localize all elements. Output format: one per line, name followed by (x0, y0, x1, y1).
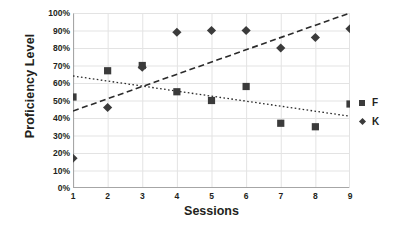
x-axis-tick-label: 9 (340, 192, 360, 201)
data-point-f (346, 100, 350, 107)
data-point-f (73, 93, 77, 100)
x-axis-tick-label: 5 (202, 192, 222, 201)
plot-canvas (73, 13, 350, 188)
x-axis-tick-label: 7 (271, 192, 291, 201)
data-point-f (173, 88, 180, 95)
data-point-f (104, 67, 111, 74)
x-axis-tick-label: 3 (132, 192, 152, 201)
plot-area (73, 13, 350, 188)
square-marker-icon (357, 97, 368, 108)
x-axis-tick-label: 1 (63, 192, 83, 201)
data-point-f (277, 120, 284, 127)
legend-label: K (372, 117, 379, 127)
data-point-f (243, 83, 250, 90)
data-point-f (312, 123, 319, 130)
diamond-marker-icon (357, 116, 368, 127)
legend-label: F (372, 98, 378, 108)
x-axis-tick-label: 4 (167, 192, 187, 201)
x-axis-tick-label: 8 (305, 192, 325, 201)
x-axis-tick-label: 6 (236, 192, 256, 201)
legend-item-f[interactable]: F (357, 93, 399, 112)
legend-item-k[interactable]: K (357, 112, 399, 131)
data-point-f (208, 97, 215, 104)
proficiency-level-scatter-chart: Proficiency Level Sessions 0%10%20%30%40… (0, 0, 399, 226)
chart-legend: FK (357, 93, 399, 131)
x-axis-tick-label: 2 (98, 192, 118, 201)
